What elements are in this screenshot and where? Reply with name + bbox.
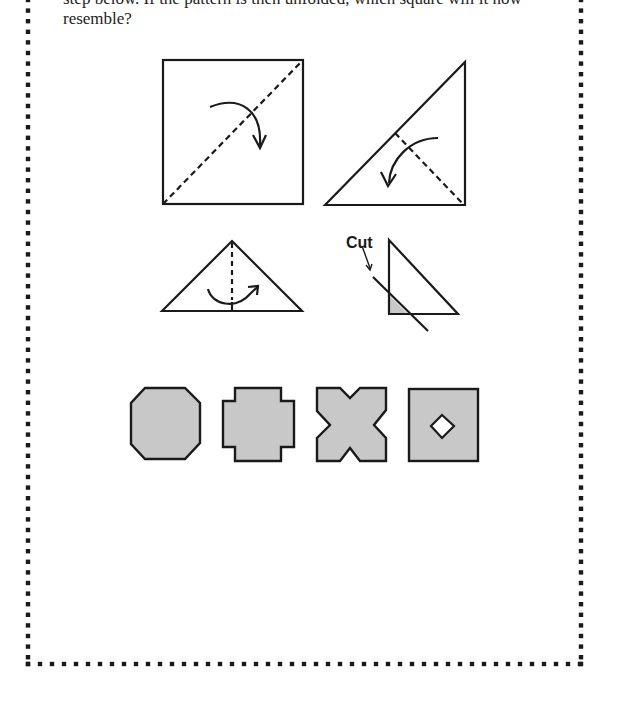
puzzle-figure: Cut [0,0,632,701]
step-4-cut: Cut [346,234,458,331]
step-2-triangle [325,62,465,205]
curved-arrow-icon [389,138,438,183]
step-3-triangle [162,241,302,311]
option-d-diamond-hole[interactable] [409,389,478,461]
option-a-octagon[interactable] [131,388,200,459]
shaded-region [389,295,408,314]
step-1-square [163,60,303,204]
cut-label: Cut [346,234,373,251]
curved-arrow-icon [210,103,260,145]
dotted-border [26,0,583,666]
cut-line [373,277,428,331]
option-c-x[interactable] [317,388,386,461]
option-b-plus[interactable] [223,388,294,461]
